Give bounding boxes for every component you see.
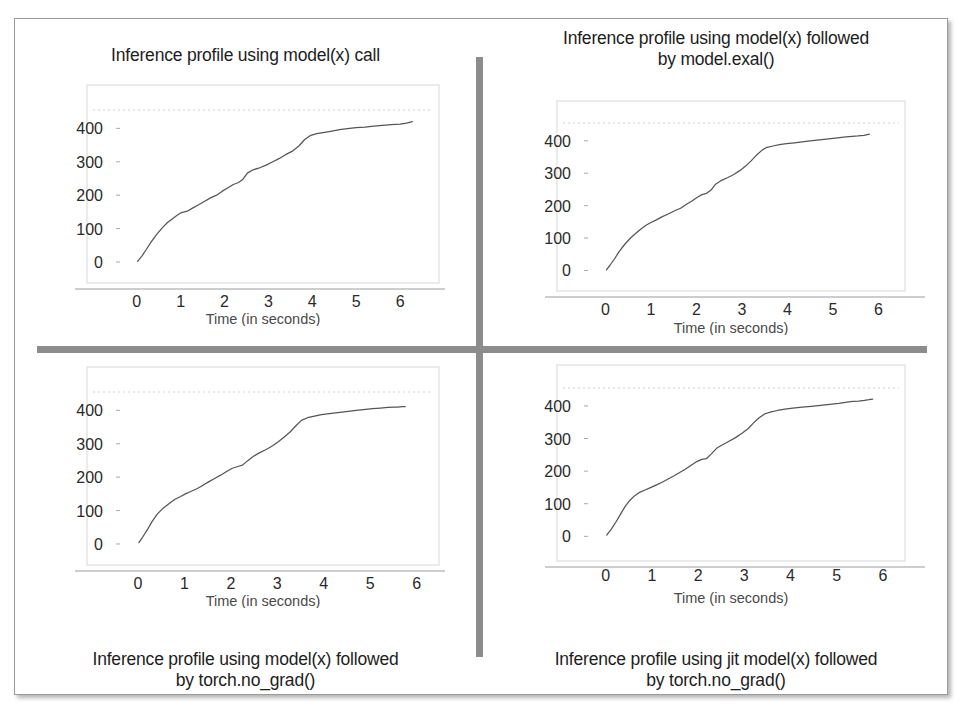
line-chart-top-left: 0123456 0100200300400 Time (in seconds) [45, 81, 445, 326]
y-tick-label: 400 [544, 133, 571, 150]
x-tick-label: 4 [319, 575, 328, 592]
y-tick-label: 200 [544, 198, 571, 215]
data-series-bottom-left [139, 407, 405, 543]
y-tick-label: 100 [544, 496, 571, 513]
y-tick-label: 0 [562, 262, 571, 279]
y-axis-ticks-top-left: 0100200300400 [76, 120, 120, 271]
x-tick-label: 2 [692, 301, 701, 318]
x-tick-label: 4 [786, 567, 795, 584]
data-line [606, 134, 869, 270]
x-tick-label: 6 [412, 575, 421, 592]
line-chart-bottom-left: 0123456 0100200300400 Time (in seconds) [45, 363, 445, 608]
y-tick-label: 300 [76, 154, 103, 171]
y-tick-label: 400 [544, 398, 571, 415]
y-axis-ticks-top-right: 0100200300400 [544, 133, 588, 280]
x-axis-ticks-top-left: 0123456 [132, 293, 404, 310]
y-tick-label: 400 [76, 120, 103, 137]
chart-panel-top-right: Inference profile using model(x) followe… [483, 19, 949, 349]
x-tick-label: 2 [220, 293, 229, 310]
x-tick-label: 3 [740, 567, 749, 584]
y-tick-label: 100 [544, 230, 571, 247]
figure-frame: Inference profile using model(x) call 01… [14, 18, 948, 695]
x-tick-label: 0 [133, 575, 142, 592]
chart-caption-bottom-right: Inference profile using jit model(x) fol… [483, 649, 949, 691]
x-tick-label: 2 [226, 575, 235, 592]
x-axis-label: Time (in seconds) [206, 593, 321, 608]
y-tick-label: 300 [76, 436, 103, 453]
y-tick-label: 300 [544, 431, 571, 448]
plot-area-top-left: 0123456 0100200300400 Time (in seconds) [45, 81, 445, 326]
plot-area-bottom-right: 0123456 0100200300400 Time (in seconds) [505, 361, 925, 606]
data-line [139, 407, 405, 543]
x-tick-label: 3 [738, 301, 747, 318]
chart-caption-bottom-left: Inference profile using model(x) followe… [15, 649, 476, 691]
x-tick-label: 5 [352, 293, 361, 310]
x-axis-label: Time (in seconds) [206, 311, 321, 326]
y-tick-label: 200 [76, 469, 103, 486]
chart-panel-bottom-left: 0123456 0100200300400 Time (in seconds) … [15, 353, 476, 696]
chart-panel-top-left: Inference profile using model(x) call 01… [15, 19, 476, 349]
plot-area-top-right: 0123456 0100200300400 Time (in seconds) [505, 97, 925, 335]
y-tick-label: 100 [76, 503, 103, 520]
chart-panel-bottom-right: 0123456 0100200300400 Time (in seconds) … [483, 353, 949, 696]
x-tick-label: 6 [878, 567, 887, 584]
y-tick-label: 200 [544, 463, 571, 480]
x-tick-label: 3 [273, 575, 282, 592]
x-tick-label: 1 [176, 293, 185, 310]
x-tick-label: 4 [308, 293, 317, 310]
x-tick-label: 1 [648, 567, 657, 584]
chart-title-top-left: Inference profile using model(x) call [15, 45, 476, 66]
data-series-top-left [138, 122, 413, 262]
x-tick-label: 0 [601, 301, 610, 318]
x-tick-label: 6 [874, 301, 883, 318]
x-axis-ticks-top-right: 0123456 [601, 301, 883, 318]
y-tick-label: 200 [76, 187, 103, 204]
x-tick-label: 0 [601, 567, 610, 584]
x-axis-ticks-bottom-right: 0123456 [601, 567, 887, 584]
data-line [607, 399, 873, 535]
x-tick-label: 4 [783, 301, 792, 318]
data-line [138, 122, 413, 262]
y-tick-label: 300 [544, 165, 571, 182]
x-tick-label: 5 [832, 567, 841, 584]
y-axis-ticks-bottom-right: 0100200300400 [544, 398, 588, 545]
y-tick-label: 400 [76, 402, 103, 419]
line-chart-top-right: 0123456 0100200300400 Time (in seconds) [505, 97, 925, 335]
y-tick-label: 0 [562, 528, 571, 545]
y-tick-label: 0 [94, 536, 103, 553]
vertical-divider [476, 57, 483, 657]
x-tick-label: 1 [180, 575, 189, 592]
y-tick-label: 0 [94, 254, 103, 271]
data-series-top-right [606, 134, 869, 270]
data-series-bottom-right [607, 399, 873, 535]
x-tick-label: 3 [264, 293, 273, 310]
x-tick-label: 5 [366, 575, 375, 592]
y-axis-ticks-bottom-left: 0100200300400 [76, 402, 120, 553]
x-axis-ticks-bottom-left: 0123456 [133, 575, 421, 592]
line-chart-bottom-right: 0123456 0100200300400 Time (in seconds) [505, 361, 925, 606]
x-axis-label: Time (in seconds) [674, 320, 789, 335]
x-tick-label: 1 [647, 301, 656, 318]
x-tick-label: 5 [829, 301, 838, 318]
x-tick-label: 6 [396, 293, 405, 310]
y-tick-label: 100 [76, 221, 103, 238]
chart-title-top-right: Inference profile using model(x) followe… [483, 28, 949, 70]
x-axis-label: Time (in seconds) [674, 590, 789, 606]
plot-area-bottom-left: 0123456 0100200300400 Time (in seconds) [45, 363, 445, 608]
x-tick-label: 2 [694, 567, 703, 584]
x-tick-label: 0 [132, 293, 141, 310]
